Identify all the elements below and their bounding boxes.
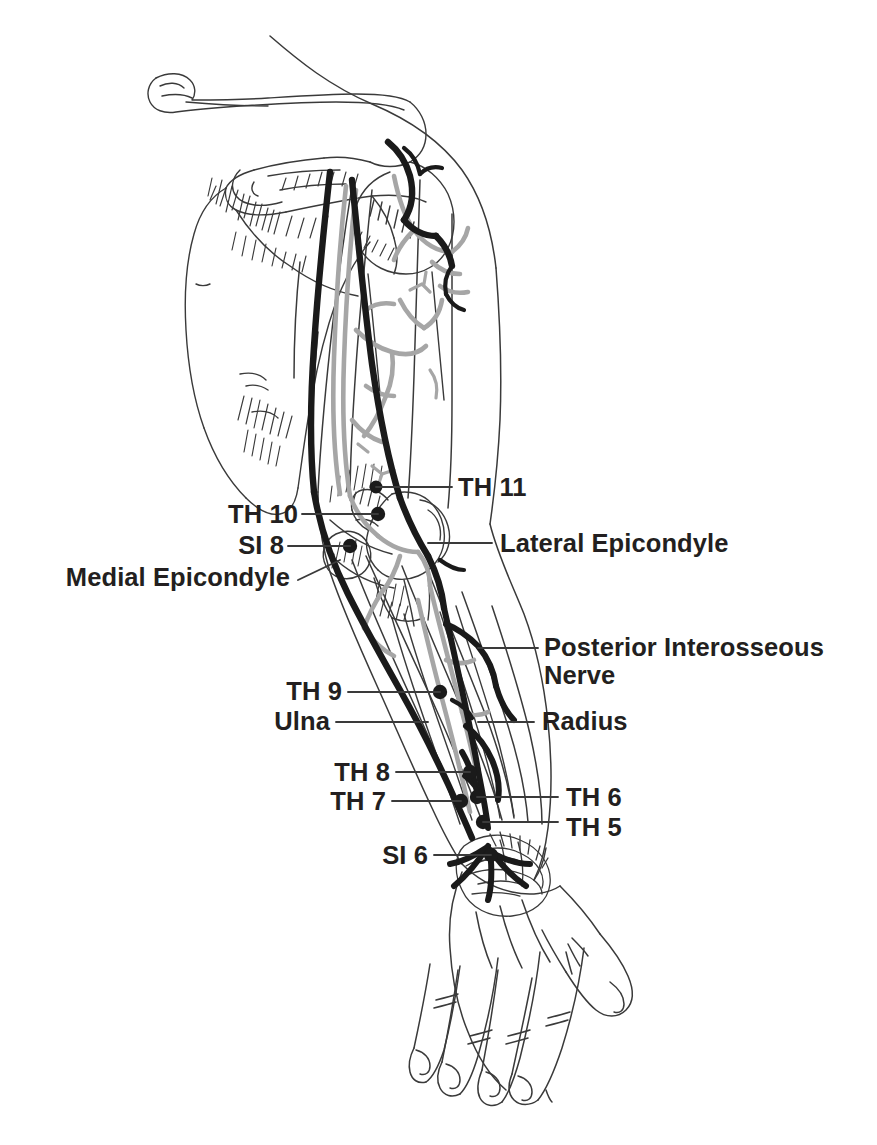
label-th9: TH 9 (130, 678, 342, 706)
label-th8: TH 8 (180, 759, 390, 787)
label-th10: TH 10 (60, 501, 298, 529)
label-radius: Radius (542, 708, 628, 736)
shoulder-girdle-bones (148, 74, 454, 515)
vessel-branches-gray (358, 272, 437, 486)
label-th7: TH 7 (180, 788, 386, 816)
radial-nerve (311, 142, 472, 838)
label-ulna: Ulna (130, 708, 330, 736)
label-lateral-epicondyle: Lateral Epicondyle (500, 530, 729, 558)
label-medial-epicondyle: Medial Epicondyle (14, 564, 290, 592)
label-th11: TH 11 (458, 474, 527, 502)
label-si8: SI 8 (60, 532, 284, 560)
label-pin-line1: Posterior Interosseous (544, 633, 824, 661)
anatomical-illustration-page: TH 11 TH 10 SI 8 Medial Epicondyle Later… (0, 0, 877, 1145)
label-pin-line2: Nerve (544, 661, 615, 689)
label-th6: TH 6 (566, 784, 622, 812)
label-th5: TH 5 (566, 814, 622, 842)
label-posterior-interosseous-nerve: Posterior Interosseous Nerve (544, 634, 824, 689)
label-si6: SI 6 (240, 842, 428, 870)
